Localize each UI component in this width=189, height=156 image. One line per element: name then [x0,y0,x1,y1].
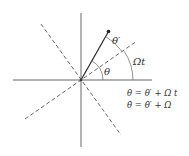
omega-t-label: Ωt [133,57,145,67]
origin-point [80,79,83,82]
pendulum-bob [107,30,111,34]
rotating-frame-diagram: θ′ θ Ωt θ = θ′ + Ω t θ̇ = θ̇′ + Ω [0,0,189,156]
equation-angular-velocity: θ̇ = θ̇′ + Ω [127,100,171,110]
omega-t-arc [124,51,133,80]
equation-angle: θ = θ′ + Ω t [127,88,177,98]
theta-prime-label: θ′ [112,36,120,46]
theta-label: θ [104,67,110,77]
theta-arc [92,61,103,80]
